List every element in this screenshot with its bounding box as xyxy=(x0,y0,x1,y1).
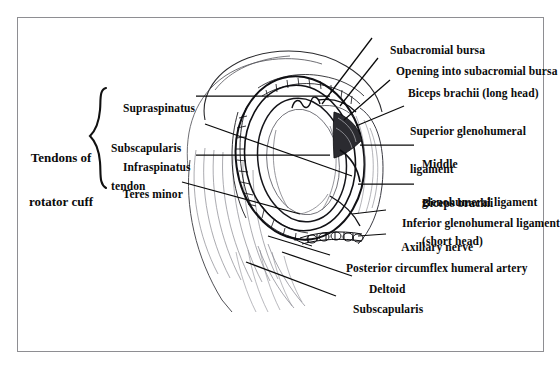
leader-inferior-gh-ligament xyxy=(352,210,386,214)
label-teres-minor: Teres minor xyxy=(111,175,183,213)
group-label-line2: rotator cuff xyxy=(20,195,102,210)
label-infraspinatus-text: Infraspinatus xyxy=(123,161,191,173)
group-label-line1: Tendons of xyxy=(20,151,102,166)
figure-canvas: Tendons of rotator cuff Supraspinatus Su… xyxy=(0,0,560,367)
label-teres-minor-text: Teres minor xyxy=(123,188,183,200)
leader-axillary-nerve xyxy=(358,234,386,236)
group-label-rotator-cuff: Tendons of rotator cuff xyxy=(20,122,102,238)
label-subscapularis: Subscapularis xyxy=(341,290,423,328)
leader-subscapularis xyxy=(246,262,336,296)
label-biceps-brachii-long-head-text: Biceps brachii (long head) xyxy=(408,87,539,99)
label-subscapularis-text: Subscapularis xyxy=(353,303,423,315)
label-inferior-gh-text: Inferior glenohumeral ligament xyxy=(402,217,560,229)
label-supraspinatus-text: Supraspinatus xyxy=(123,102,195,114)
label-middle-gh-line1: Middle xyxy=(422,158,538,171)
